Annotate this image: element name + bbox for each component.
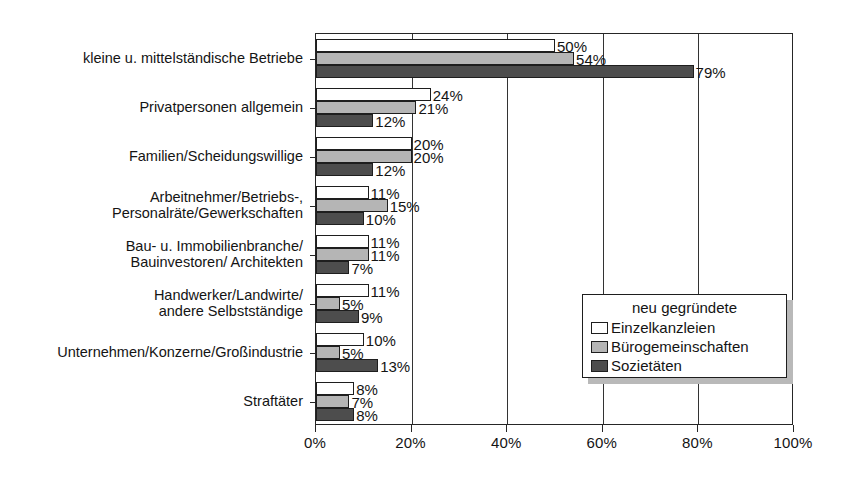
category-label-line: Arbeitnehmer/Betriebs-, bbox=[112, 189, 303, 205]
legend: neu gegründete EinzelkanzleienBürogemein… bbox=[582, 294, 787, 378]
category-axis-labels: kleine u. mittelständische BetriebePriva… bbox=[0, 0, 309, 477]
bar-value-label: 54% bbox=[576, 51, 606, 66]
x-axis-tick-label: 0% bbox=[304, 434, 326, 451]
category-label: Arbeitnehmer/Betriebs-,Personalräte/Gewe… bbox=[112, 189, 303, 221]
bar-value-label: 12% bbox=[375, 113, 405, 128]
bar bbox=[316, 163, 373, 176]
bar bbox=[316, 235, 369, 248]
category-label: Unternehmen/Konzerne/Großindustrie bbox=[57, 344, 303, 360]
bar-value-label: 20% bbox=[414, 149, 444, 164]
x-axis-tick bbox=[602, 425, 603, 432]
bar-value-label: 5% bbox=[342, 345, 364, 360]
category-label-line: Handwerker/Landwirte/ bbox=[154, 287, 303, 303]
category-label-line: Bauinvestoren/ Architekten bbox=[126, 254, 303, 270]
bar-value-label: 7% bbox=[351, 260, 373, 275]
x-axis-tick-label: 80% bbox=[682, 434, 713, 451]
legend-title: neu gegründete bbox=[591, 299, 778, 317]
bar bbox=[316, 408, 354, 421]
bar-value-label: 10% bbox=[366, 332, 396, 347]
legend-label: Sozietäten bbox=[611, 357, 682, 374]
bar bbox=[316, 39, 555, 52]
bar bbox=[316, 114, 373, 127]
category-label-line: Familien/Scheidungswillige bbox=[129, 148, 303, 164]
category-label-line: Unternehmen/Konzerne/Großindustrie bbox=[57, 344, 303, 360]
bar-value-label: 8% bbox=[356, 407, 378, 422]
bar-value-label: 12% bbox=[375, 162, 405, 177]
bar bbox=[316, 395, 349, 408]
bar bbox=[316, 382, 354, 395]
bar bbox=[316, 137, 412, 150]
bar bbox=[316, 261, 349, 274]
category-label-line: Bau- u. Immobilienbranche/ bbox=[126, 238, 303, 254]
legend-swatch bbox=[591, 322, 608, 334]
legend-swatch bbox=[591, 360, 608, 372]
x-axis-tick-label: 40% bbox=[491, 434, 522, 451]
bar-value-label: 79% bbox=[696, 64, 726, 79]
category-label: Handwerker/Landwirte/andere Selbstständi… bbox=[154, 287, 303, 319]
legend-label: Bürogemeinschaften bbox=[611, 338, 749, 355]
x-axis-tick-label: 60% bbox=[586, 434, 617, 451]
bar-value-label: 10% bbox=[366, 211, 396, 226]
category-label: Straftäter bbox=[243, 393, 303, 409]
legend-entry: Einzelkanzleien bbox=[591, 318, 778, 337]
bar-value-label: 13% bbox=[380, 358, 410, 373]
category-label-line: Straftäter bbox=[243, 393, 303, 409]
bar bbox=[316, 88, 431, 101]
bar bbox=[316, 346, 340, 359]
category-label-line: kleine u. mittelständische Betriebe bbox=[83, 50, 303, 66]
category-label: Bau- u. Immobilienbranche/Bauinvestoren/… bbox=[126, 238, 303, 270]
bar bbox=[316, 65, 694, 78]
category-label-line: Personalräte/Gewerkschaften bbox=[112, 205, 303, 221]
bar bbox=[316, 212, 364, 225]
legend-label: Einzelkanzleien bbox=[611, 319, 715, 336]
legend-entry: Bürogemeinschaften bbox=[591, 337, 778, 356]
bar-value-label: 21% bbox=[418, 100, 448, 115]
x-axis-tick-label: 20% bbox=[395, 434, 426, 451]
category-label: Familien/Scheidungswillige bbox=[129, 148, 303, 164]
category-label: Privatpersonen allgemein bbox=[139, 99, 303, 115]
x-axis-tick bbox=[793, 425, 794, 432]
bar-chart: kleine u. mittelständische BetriebePriva… bbox=[0, 0, 850, 477]
bar bbox=[316, 186, 369, 199]
category-label-line: Privatpersonen allgemein bbox=[139, 99, 303, 115]
x-axis-tick bbox=[411, 425, 412, 432]
x-axis-tick bbox=[697, 425, 698, 432]
legend-entries: EinzelkanzleienBürogemeinschaftenSozietä… bbox=[591, 318, 778, 375]
legend-entry: Sozietäten bbox=[591, 356, 778, 375]
bar bbox=[316, 297, 340, 310]
bar-value-label: 9% bbox=[361, 309, 383, 324]
category-label-line: andere Selbstständige bbox=[154, 303, 303, 319]
x-axis-tick-label: 100% bbox=[773, 434, 812, 451]
legend-swatch bbox=[591, 341, 608, 353]
bar bbox=[316, 52, 574, 65]
bar-value-label: 11% bbox=[371, 247, 400, 262]
bar-value-label: 11% bbox=[371, 283, 400, 298]
x-axis-tick bbox=[506, 425, 507, 432]
category-label: kleine u. mittelständische Betriebe bbox=[83, 50, 303, 66]
x-axis-tick bbox=[315, 425, 316, 432]
gridline bbox=[507, 34, 508, 424]
